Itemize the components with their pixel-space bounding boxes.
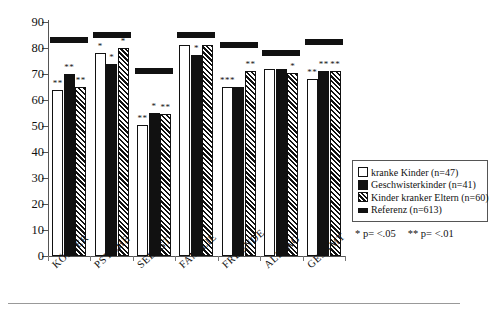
significance-marker: * (152, 102, 157, 111)
x-axis-tick-mark (133, 256, 134, 261)
bar (264, 69, 275, 256)
bar (137, 125, 148, 256)
y-axis-tick-label: 70 (32, 68, 45, 81)
legend-swatch-hatch-icon (358, 192, 368, 202)
plot-area: 0102030405060708090*********************… (48, 22, 345, 256)
reference-bar (93, 32, 131, 38)
significance-marker: * (121, 37, 126, 46)
bar (222, 87, 233, 256)
chart-figure: 0102030405060708090*********************… (0, 0, 495, 312)
bar-group: ****** (48, 22, 90, 256)
bar-group: ***** (133, 22, 175, 256)
legend-label: Geschwisterkinder (n=41) (371, 179, 476, 190)
legend-swatch-open-icon (358, 167, 368, 177)
x-axis-tick-mark (175, 256, 176, 261)
reference-bar (177, 32, 215, 38)
significance-marker: ** (138, 114, 148, 123)
significance-marker: * (194, 44, 199, 53)
significance-marker: ** (307, 68, 317, 77)
reference-bar (305, 39, 343, 45)
legend-label: Kinder kranker Eltern (n=60) (371, 192, 489, 203)
legend-swatch-reference-icon (358, 208, 368, 213)
bar (75, 87, 86, 256)
legend-label: kranke Kinder (n=47) (371, 167, 458, 178)
reference-bar (50, 37, 88, 43)
y-axis-tick-label: 0 (38, 250, 44, 263)
bar (330, 71, 341, 256)
x-axis-tick-mark (90, 256, 91, 261)
bar (95, 53, 106, 256)
bar-group: ****** (303, 22, 345, 256)
chart-legend: kranke Kinder (n=47) Geschwisterkinder (… (352, 160, 488, 222)
x-axis-tick-mark (345, 256, 346, 261)
bar-group: *** (90, 22, 132, 256)
bar (118, 48, 129, 256)
significance-marker: ** (161, 103, 171, 112)
significance-note-p05: * p= <.05 (355, 228, 396, 239)
bar (52, 90, 63, 256)
y-axis-tick-label: 40 (32, 146, 45, 159)
reference-bar (220, 42, 258, 48)
significance-note-p01: ** p= <.01 (408, 228, 454, 239)
bar (245, 71, 256, 256)
bar (202, 45, 213, 256)
bar-group: * (175, 22, 217, 256)
bar-group: ***** (218, 22, 260, 256)
bar (318, 71, 329, 256)
significance-marker: ** (245, 60, 255, 69)
bar (191, 55, 202, 257)
y-axis-tick-label: 90 (32, 16, 45, 29)
x-axis-tick-mark (48, 256, 49, 261)
bar (307, 79, 318, 256)
bar (106, 64, 117, 256)
significance-marker: ** (330, 60, 340, 69)
significance-marker: ** (319, 60, 329, 69)
significance-note: * p= <.05** p= <.01 (355, 228, 454, 239)
x-axis-tick-mark (303, 256, 304, 261)
reference-bar (135, 68, 173, 74)
significance-marker: * (98, 42, 103, 51)
y-axis-tick-label: 30 (32, 172, 45, 185)
legend-item-referenz: Referenz (n=613) (358, 204, 483, 215)
bottom-rule-divider (8, 303, 460, 304)
bar (233, 87, 244, 256)
legend-label: Referenz (n=613) (371, 204, 442, 215)
legend-item-kranke-kinder: kranke Kinder (n=47) (358, 167, 483, 178)
y-axis-tick-label: 50 (32, 120, 45, 133)
legend-swatch-solid-icon (358, 180, 368, 190)
y-axis-tick-label: 60 (32, 94, 45, 107)
y-axis-tick-label: 80 (32, 42, 45, 55)
bar (149, 113, 160, 256)
legend-item-geschwisterkinder: Geschwisterkinder (n=41) (358, 179, 483, 190)
significance-marker: ** (53, 79, 63, 88)
y-axis-tick-label: 20 (32, 198, 45, 211)
bar (64, 74, 75, 256)
significance-marker: * (290, 62, 295, 71)
bar (287, 73, 298, 256)
legend-item-kinder-kranker-eltern: Kinder kranker Eltern (n=60) (358, 192, 483, 203)
reference-bar (262, 50, 300, 56)
bar (276, 69, 287, 256)
x-axis-tick-mark (218, 256, 219, 261)
significance-marker: ** (64, 63, 74, 72)
y-axis-tick-label: 10 (32, 224, 45, 237)
significance-marker: * (109, 53, 114, 62)
significance-marker: *** (220, 76, 235, 85)
bar (179, 45, 190, 256)
bar-group: * (260, 22, 302, 256)
significance-marker: ** (76, 76, 86, 85)
x-axis-tick-mark (260, 256, 261, 261)
